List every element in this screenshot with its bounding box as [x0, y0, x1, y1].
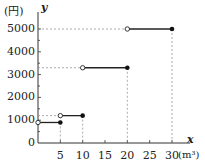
- y-tick-label: 1000: [1, 114, 35, 125]
- x-tick-label: 30: [162, 150, 182, 161]
- closed-point: [58, 120, 63, 125]
- closed-point: [80, 113, 85, 118]
- open-point: [36, 120, 40, 124]
- open-point: [80, 66, 84, 70]
- x-tick-label: 5: [50, 150, 70, 161]
- open-point: [58, 113, 62, 117]
- x-tick-label: 15: [95, 150, 115, 161]
- y-tick-label: 4000: [1, 46, 35, 57]
- y-tick-label: 3000: [1, 69, 35, 80]
- y-unit-label: (円): [4, 6, 24, 17]
- x-tick-label: 10: [73, 150, 93, 161]
- open-point: [125, 27, 129, 31]
- y-tick-label: 0: [1, 137, 35, 148]
- y-variable-label: y: [41, 2, 47, 13]
- closed-point: [125, 65, 130, 70]
- x-tick-label: 25: [140, 150, 160, 161]
- x-variable-label: x: [187, 134, 194, 145]
- closed-point: [170, 27, 175, 32]
- y-tick-label: 2000: [1, 91, 35, 102]
- y-tick-label: 5000: [1, 23, 35, 34]
- x-tick-label: 20: [117, 150, 137, 161]
